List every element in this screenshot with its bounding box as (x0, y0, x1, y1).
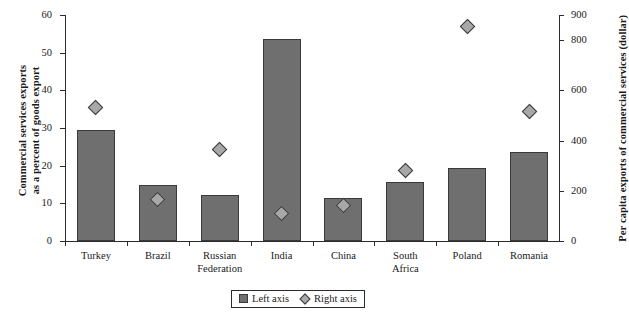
x-axis-tick-label: Russian Federation (189, 249, 251, 275)
bar (386, 182, 424, 241)
x-axis-tick (251, 241, 252, 246)
y-right-tick (559, 241, 564, 242)
y-left-tick (60, 166, 65, 167)
y-right-tick (559, 40, 564, 41)
legend-label-right-axis: Right axis (314, 293, 357, 304)
y-right-tick-label: 0 (571, 235, 611, 246)
x-axis-tick-label: Turkey (65, 249, 127, 262)
x-axis-tick (374, 241, 375, 246)
y-left-tick (60, 128, 65, 129)
y-right-tick (559, 15, 564, 16)
x-axis-tick (189, 241, 190, 246)
y-left-tick (60, 53, 65, 54)
bar (510, 152, 548, 241)
y-axis-right-title: Per capita exports of commercial service… (617, 13, 629, 243)
chart-legend: Left axis Right axis (231, 290, 365, 308)
y-right-tick-label: 900 (571, 9, 611, 20)
x-axis-tick-label: South Africa (374, 249, 436, 275)
bar (77, 130, 115, 241)
y-left-tick-label: 0 (12, 235, 52, 246)
x-axis-tick (436, 241, 437, 246)
y-right-tick (559, 191, 564, 192)
y-left-tick (60, 15, 65, 16)
x-axis-tick-label: Poland (436, 249, 498, 262)
y-left-tick-label: 30 (12, 122, 52, 133)
bar (448, 168, 486, 241)
y-left-tick-label: 60 (12, 9, 52, 20)
x-axis-tick-label: Romania (498, 249, 560, 262)
y-axis-left-line (65, 15, 66, 242)
x-axis-tick (313, 241, 314, 246)
y-left-tick-label: 20 (12, 160, 52, 171)
y-left-tick (60, 203, 65, 204)
legend-square-icon (239, 294, 248, 303)
data-point-marker (521, 104, 537, 120)
data-point-marker (398, 163, 414, 179)
plot-area: 0102030405060 0200400600800900 TurkeyBra… (65, 15, 560, 242)
data-point-marker (212, 142, 228, 158)
x-axis-tick-label: India (251, 249, 313, 262)
x-axis-tick (127, 241, 128, 246)
bar (201, 195, 239, 241)
legend-label-left-axis: Left axis (252, 293, 289, 304)
y-right-tick-label: 600 (571, 84, 611, 95)
y-right-tick (559, 90, 564, 91)
y-left-tick-label: 40 (12, 84, 52, 95)
x-axis-tick (498, 241, 499, 246)
x-axis-tick-label: China (313, 249, 375, 262)
data-point-marker (459, 19, 475, 35)
x-axis-tick (65, 241, 66, 246)
legend-item-left-axis: Left axis (239, 293, 289, 304)
legend-diamond-icon (299, 293, 310, 304)
y-right-tick (559, 141, 564, 142)
y-axis-right-line (559, 15, 560, 242)
y-left-tick-label: 50 (12, 47, 52, 58)
y-right-tick-label: 800 (571, 34, 611, 45)
y-right-tick-label: 400 (571, 135, 611, 146)
y-left-tick (60, 90, 65, 91)
y-right-tick-label: 200 (571, 185, 611, 196)
x-axis-tick-label: Brazil (127, 249, 189, 262)
legend-item-right-axis: Right axis (300, 293, 357, 304)
y-left-tick-label: 10 (12, 197, 52, 208)
data-point-marker (88, 100, 104, 116)
